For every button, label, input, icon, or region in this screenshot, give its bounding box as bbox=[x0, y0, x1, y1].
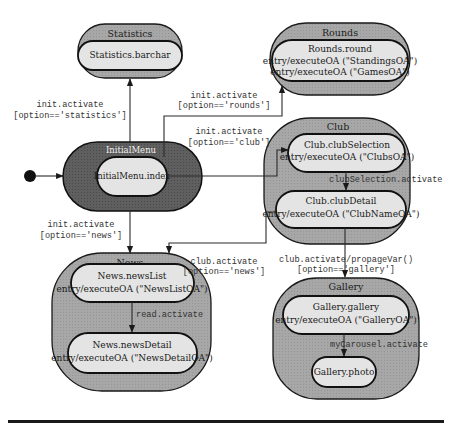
gallery-gallery-state: Gallery.gallery entry/executeOA ("Galler… bbox=[275, 296, 417, 334]
transition-label: init.activate bbox=[36, 100, 103, 110]
transition-guard: [option=='rounds'] bbox=[178, 101, 271, 111]
transition-label: club.activate/propageVar() bbox=[279, 255, 413, 265]
gallery-title: Gallery bbox=[329, 281, 364, 292]
rounds-composite-state: Rounds Rounds.round entry/executeOA ("St… bbox=[263, 23, 417, 95]
transition-label: club.activate bbox=[190, 257, 257, 267]
transition-label: init.activate bbox=[190, 91, 257, 101]
statistics-title: Statistics bbox=[108, 28, 153, 39]
news-detail-state: News.newsDetail entry/executeOA ("NewsDe… bbox=[51, 333, 212, 373]
transition-guard: [option=='news'] bbox=[40, 231, 123, 241]
state-name: Statistics.barchar bbox=[89, 50, 171, 60]
club-composite-state: Club Club.clubSelection entry/executeOA … bbox=[262, 118, 442, 244]
statistics-composite-state: Statistics Statistics.barchar bbox=[78, 24, 182, 78]
gallery-composite-state: Gallery Gallery.gallery entry/executeOA … bbox=[273, 278, 428, 399]
rounds-round-state: Rounds.round entry/executeOA ("Standings… bbox=[263, 40, 417, 81]
state-entry-action: entry/executeOA ("ClubNameOA") bbox=[262, 209, 419, 219]
initialmenu-title: InitialMenu bbox=[106, 145, 157, 155]
gallery-photo-state: Gallery.photo bbox=[312, 357, 376, 387]
transition-guard: [option=='news'] bbox=[183, 267, 266, 277]
initialmenu-index-state: InitialMenu.index bbox=[94, 157, 171, 196]
state-entry-action: entry/executeOA ("ClubsOA") bbox=[280, 152, 415, 162]
club-detail-state: Club.clubDetail entry/executeOA ("ClubNa… bbox=[262, 191, 419, 228]
club-to-news-arrow bbox=[169, 212, 276, 253]
statistics-barchar-state: Statistics.barchar bbox=[78, 41, 182, 70]
state-entry-action: entry/executeOA ("GalleryOA") bbox=[275, 315, 417, 325]
state-name: Club.clubSelection bbox=[304, 140, 390, 150]
transition-label: myCarousel.activate bbox=[330, 340, 428, 350]
state-name: Club.clubDetail bbox=[306, 196, 377, 206]
club-title: Club bbox=[327, 121, 350, 132]
initial-pseudostate-icon bbox=[24, 170, 36, 182]
transition-label: clubSelection.activate bbox=[329, 175, 442, 185]
state-name: News.newsList bbox=[98, 271, 167, 281]
transition-guard: [option=='gallery'] bbox=[297, 265, 395, 275]
transition-label: init.activate bbox=[195, 127, 262, 137]
state-name: Gallery.photo bbox=[314, 367, 375, 377]
state-entry-action: entry/executeOA ("GamesOA") bbox=[270, 67, 410, 77]
state-name: InitialMenu.index bbox=[94, 171, 171, 181]
state-entry-action: entry/executeOA ("NewsListOA") bbox=[56, 284, 207, 294]
state-name: Rounds.round bbox=[308, 44, 372, 54]
transition-label: init.activate bbox=[47, 220, 114, 230]
rounds-title: Rounds bbox=[322, 27, 358, 38]
transition-guard: [option=='club'] bbox=[188, 138, 271, 148]
state-entry-action: entry/executeOA ("NewsDetailOA") bbox=[51, 353, 212, 363]
state-name: News.newsDetail bbox=[92, 340, 171, 350]
transition-guard: [option=='statistics'] bbox=[13, 111, 126, 121]
club-selection-state: Club.clubSelection entry/executeOA ("Clu… bbox=[280, 134, 415, 172]
bottom-divider bbox=[8, 420, 444, 423]
state-diagram: Statistics Statistics.barchar Rounds Rou… bbox=[0, 0, 454, 426]
transition-label: read.activate bbox=[136, 310, 203, 320]
state-name: Gallery.gallery bbox=[313, 302, 380, 312]
state-entry-action: entry/executeOA ("StandingsOA") bbox=[263, 56, 417, 66]
